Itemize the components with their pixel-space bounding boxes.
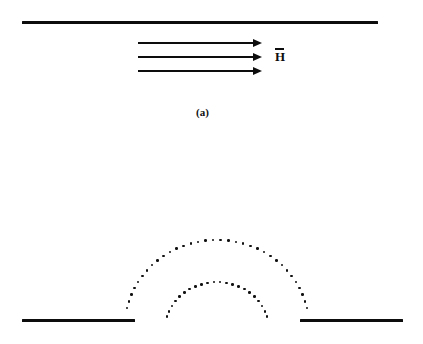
inner-fringing-arc-dot [174,300,177,303]
panel-a-caption: (a) [196,106,209,118]
outer-fringing-arc-dot [133,287,136,290]
outer-fringing-arc-dot [162,255,165,258]
magnetic-field-label-text: H [275,49,285,64]
outer-fringing-arc-dot [298,287,301,290]
inner-fringing-arc-dot [225,282,228,285]
arrow-head-icon [253,39,262,47]
field-arrow-shaft [138,70,254,72]
inner-fringing-arc-dot [248,291,251,294]
inner-fringing-arc-dot [168,310,171,313]
inner-fringing-arc-dot [194,285,197,288]
inner-fringing-arc-dot [188,288,191,291]
inner-fringing-arc-dot [200,283,203,286]
inner-fringing-arc-dot [178,295,181,298]
inner-fringing-arc-dot [213,281,216,284]
outer-fringing-arc-dot [197,241,200,244]
outer-fringing-arc-dot [304,300,307,303]
outer-fringing-arc-dot [204,239,207,242]
outer-fringing-arc-dot [263,251,266,254]
inner-fringing-arc-dot [206,282,209,285]
outer-fringing-arc-dot [182,245,185,248]
inner-fringing-arc-dot [253,295,256,298]
outer-fringing-arc-dot [128,300,131,303]
outer-fringing-arc-dot [256,247,259,250]
panel-b-right-plate [300,319,403,322]
outer-fringing-arc-dot [137,281,140,284]
inner-fringing-arc-dot [219,281,222,284]
outer-fringing-arc-dot [235,241,238,244]
outer-fringing-arc-dot [227,239,230,242]
arrow-head-icon [253,53,262,61]
outer-fringing-arc-dot [290,275,293,278]
outer-fringing-arc-dot [301,293,304,296]
magnetic-field-figure: H (a) [0,0,423,344]
outer-fringing-arc-dot [175,247,178,250]
outer-fringing-arc-dot [249,245,252,248]
outer-fringing-arc-dot [306,307,309,310]
inner-fringing-arc-dot [237,285,240,288]
panel-a-plate [22,21,378,24]
inner-fringing-arc-dot [183,291,186,294]
outer-fringing-arc-dot [151,264,154,267]
inner-fringing-arc-dot [257,300,260,303]
inner-fringing-arc-dot [243,288,246,291]
inner-fringing-arc-dot [231,283,234,286]
outer-fringing-arc-dot [126,307,129,310]
outer-fringing-arc-dot [156,259,159,262]
field-arrow-shaft [138,56,254,58]
outer-fringing-arc-dot [281,264,284,267]
outer-fringing-arc-dot [146,269,149,272]
magnetic-field-label: H [275,48,285,63]
arrow-head-icon [253,67,262,75]
outer-fringing-arc-dot [169,251,172,254]
inner-fringing-arc-dot [266,315,269,318]
inner-fringing-arc-dot [264,310,267,313]
outer-fringing-arc-dot [242,242,245,245]
panel-b-left-plate [22,319,135,322]
outer-fringing-arc-dot [295,281,298,284]
outer-fringing-arc-dot [269,255,272,258]
inner-fringing-arc-dot [261,305,264,308]
outer-fringing-arc-dot [275,259,278,262]
outer-fringing-arc-dot [286,269,289,272]
outer-fringing-arc-dot [219,239,222,242]
inner-fringing-arc-dot [171,305,174,308]
field-arrow-shaft [138,42,254,44]
outer-fringing-arc-dot [141,275,144,278]
outer-fringing-arc-dot [130,293,133,296]
outer-fringing-arc-dot [190,242,193,245]
outer-fringing-arc-dot [212,239,215,242]
inner-fringing-arc-dot [166,315,169,318]
